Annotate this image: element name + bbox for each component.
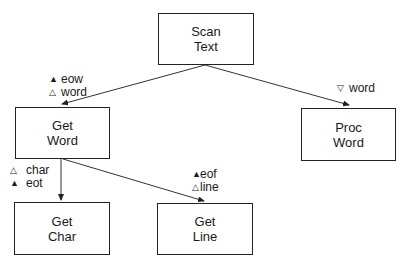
node-label-line2: Word	[47, 133, 78, 148]
data-open-up-icon: △	[49, 86, 61, 99]
edge-getword-to-getline	[63, 159, 204, 201]
couple-label-scan-procword: ▽ word	[337, 82, 375, 95]
node-label-line2: Text	[194, 39, 218, 54]
flag-filled-up-icon: ▲	[10, 177, 26, 190]
node-label-line1: Get	[195, 214, 216, 229]
couple-text: line	[200, 181, 219, 194]
data-open-up-icon: △	[10, 164, 26, 177]
node-get-word: Get Word	[15, 107, 110, 159]
couple-label-getword-getline: ▲ eof △ line	[192, 168, 219, 194]
couple-text: word	[349, 82, 375, 95]
node-proc-word: Proc Word	[301, 108, 396, 161]
node-label-line1: Scan	[191, 24, 221, 39]
flag-filled-up-icon: ▲	[49, 73, 61, 86]
node-label-line2: Word	[333, 135, 364, 150]
data-open-down-icon: ▽	[337, 82, 349, 95]
couple-label-scan-getword: ▲ eow △ word	[49, 73, 87, 99]
couple-text: word	[61, 86, 87, 99]
node-get-char: Get Char	[14, 202, 110, 255]
data-open-up-icon: △	[192, 181, 200, 194]
node-label-line2: Char	[48, 229, 76, 244]
node-label-line1: Get	[52, 214, 73, 229]
node-label-line2: Line	[193, 229, 218, 244]
edge-scan-to-procword	[205, 65, 349, 105]
node-get-line: Get Line	[157, 203, 253, 255]
node-scan-text: Scan Text	[158, 13, 254, 65]
couple-label-getword-getchar: △ char ▲ eot	[10, 164, 49, 190]
node-label-line1: Proc	[335, 120, 362, 135]
node-label-line1: Get	[52, 118, 73, 133]
flag-filled-up-icon: ▲	[192, 168, 200, 181]
couple-text: eot	[26, 177, 43, 190]
